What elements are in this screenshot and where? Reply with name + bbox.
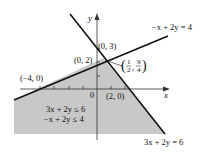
region-inequality-2: −x + 2y ≤ 4: [44, 114, 85, 124]
svg-text:,: ,: [132, 62, 134, 72]
point-label-0-2: (0, 2): [74, 55, 93, 65]
y-axis-arrow-icon: [95, 13, 100, 20]
line-label-3x-plus-2y: 3x + 2y = 6: [144, 137, 183, 147]
svg-text:9: 9: [137, 58, 141, 66]
inequality-graph: y x 0 −x + 2y = 4 3x + 2y = 6 (−4, 0) (0…: [0, 0, 205, 154]
point-label-neg4-0: (−4, 0): [20, 73, 43, 83]
origin-label: 0: [90, 90, 94, 100]
svg-text:1: 1: [127, 58, 131, 66]
svg-text:2: 2: [127, 66, 131, 74]
svg-text:4: 4: [137, 66, 141, 74]
x-axis-label: x: [163, 90, 168, 100]
line-label-neg-x-plus-2y: −x + 2y = 4: [152, 22, 193, 32]
point-label-intersection: ( 1 2 , 9 4 ): [121, 58, 147, 74]
svg-text:): ): [142, 58, 147, 74]
svg-text:(: (: [121, 58, 126, 74]
y-axis-label: y: [87, 13, 92, 23]
region-inequality-1: 3x + 2y ≤ 6: [46, 104, 85, 114]
point-label-0-3: (0, 3): [98, 41, 117, 51]
point-label-2-0: (2, 0): [106, 91, 125, 101]
